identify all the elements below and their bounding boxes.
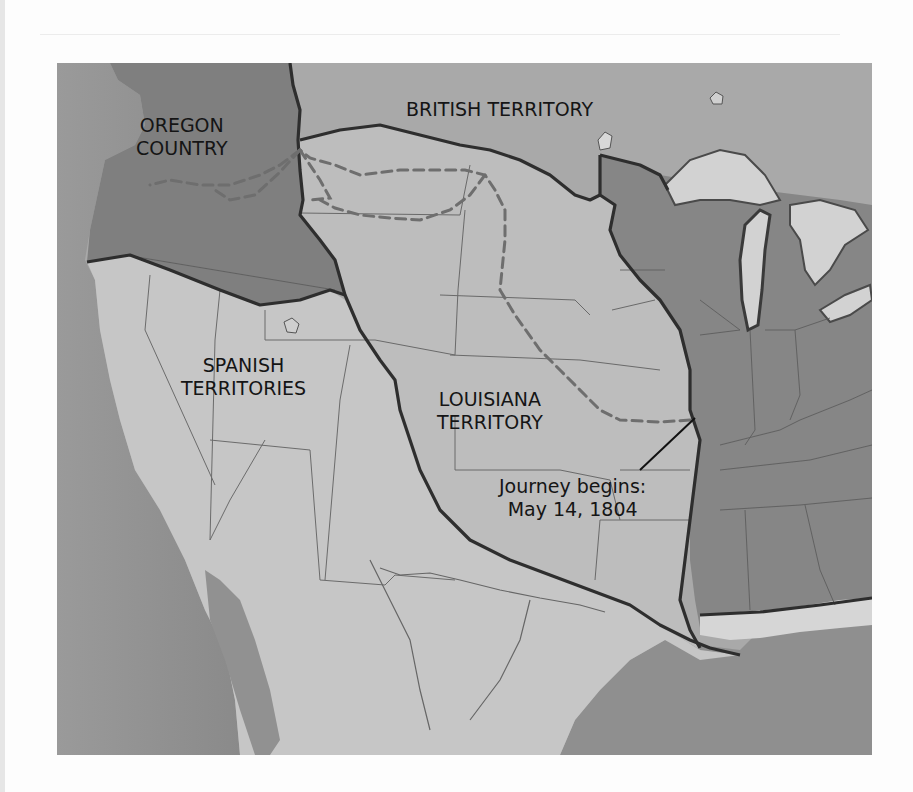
oregon-label-line2: COUNTRY xyxy=(136,137,228,160)
journey-label-line1: Journey begins: xyxy=(499,475,646,498)
british-label-text: BRITISH TERRITORY xyxy=(406,98,593,121)
louisiana-territory-label: LOUISIANA TERRITORY xyxy=(437,388,543,434)
journey-begins-label: Journey begins: May 14, 1804 xyxy=(499,475,646,521)
spanish-territories-label: SPANISH TERRITORIES xyxy=(181,354,306,400)
oregon-country-label: OREGON COUNTRY xyxy=(136,114,228,160)
spanish-label-line2: TERRITORIES xyxy=(181,377,306,400)
journey-label-line2: May 14, 1804 xyxy=(499,498,646,521)
spanish-label-line1: SPANISH xyxy=(181,354,306,377)
oregon-label-line1: OREGON xyxy=(136,114,228,137)
british-territory-label: BRITISH TERRITORY xyxy=(406,98,593,121)
divider xyxy=(40,34,840,35)
page-edge xyxy=(0,0,5,792)
louisiana-label-line2: TERRITORY xyxy=(437,411,543,434)
louisiana-label-line1: LOUISIANA xyxy=(437,388,543,411)
